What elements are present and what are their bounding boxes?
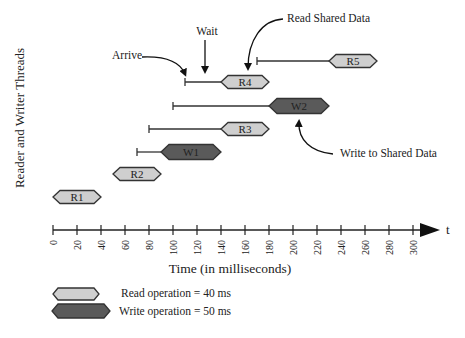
thread-r1: R1 <box>53 191 101 204</box>
wait-label: Wait <box>196 25 218 37</box>
thread-w2: W2 <box>173 99 329 114</box>
axis-tick-label: 100 <box>168 240 179 255</box>
y-axis-label: Reader and Writer Threads <box>12 48 27 188</box>
axis-tick-label: 60 <box>120 240 131 250</box>
axis-arrow-icon <box>420 223 440 237</box>
axis-tick-label: 20 <box>72 240 83 250</box>
thread-r4: R4 <box>185 76 269 89</box>
thread-label: W1 <box>183 146 199 158</box>
thread-label: R1 <box>71 191 84 203</box>
thread-label: R2 <box>131 168 144 180</box>
read-shared-data-label: Read Shared Data <box>287 12 370 24</box>
thread-r5: R5 <box>257 55 377 68</box>
thread-label: R4 <box>239 76 252 88</box>
time-axis: t 02040608010012014016018020022024026028… <box>48 222 451 276</box>
axis-tick-label: 160 <box>240 240 251 255</box>
axis-tick-label: 220 <box>312 240 323 255</box>
axis-tick-label: 0 <box>48 240 59 245</box>
thread-rows: R1R2W1R3W2R4R5 <box>53 55 377 204</box>
write-shared-data-label: Write to Shared Data <box>340 147 437 159</box>
axis-tick-label: 180 <box>264 240 275 255</box>
axis-tick-label: 40 <box>96 240 107 250</box>
arrive-arrow-icon <box>142 57 185 74</box>
legend: Read operation = 40 ms Write operation =… <box>52 287 232 318</box>
axis-tick-label: 260 <box>360 240 371 255</box>
axis-tick-label: 80 <box>144 240 155 250</box>
reader-writer-timeline-diagram: Reader and Writer Threads t 020406080100… <box>0 0 465 338</box>
thread-w1: W1 <box>137 145 221 160</box>
axis-end-label: t <box>446 222 450 237</box>
axis-tick-label: 240 <box>336 240 347 255</box>
axis-tick-label: 300 <box>408 240 419 255</box>
axis-tick-label: 140 <box>216 240 227 255</box>
annotations: Arrive Wait Read Shared Data Write to Sh… <box>112 12 437 159</box>
thread-label: R3 <box>239 123 252 135</box>
axis-tick-label: 280 <box>384 240 395 255</box>
thread-label: W2 <box>291 100 307 112</box>
legend-read-label: Read operation = 40 ms <box>121 287 231 300</box>
x-axis-label: Time (in milliseconds) <box>169 261 292 276</box>
legend-write-swatch <box>52 304 110 318</box>
arrive-label: Arrive <box>112 49 142 61</box>
legend-read-swatch <box>53 288 99 300</box>
axis-tick-label: 200 <box>288 240 299 255</box>
axis-tick-label: 120 <box>192 240 203 255</box>
thread-r2: R2 <box>113 168 161 181</box>
legend-write-label: Write operation = 50 ms <box>119 305 232 318</box>
thread-label: R5 <box>347 55 360 67</box>
write-shared-arrow-icon <box>299 122 333 154</box>
thread-r3: R3 <box>149 123 269 136</box>
